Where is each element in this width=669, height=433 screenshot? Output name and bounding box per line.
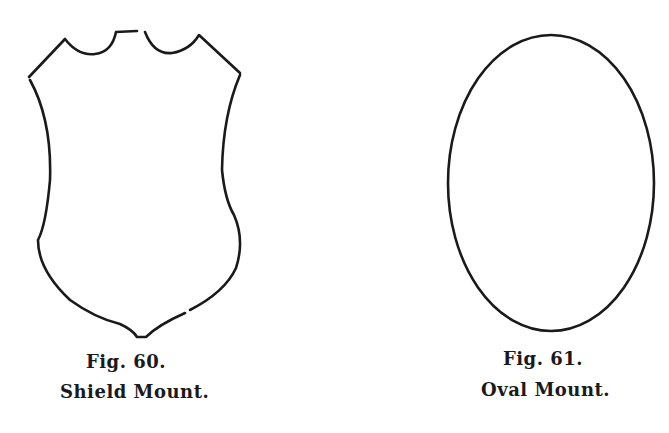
oval-mount-drawing <box>448 35 654 331</box>
figure-61-label: Fig. 61. <box>503 348 583 369</box>
figure-60-title: Shield Mount. <box>60 381 209 402</box>
figure-60-label: Fig. 60. <box>86 351 166 372</box>
shield-mount-drawing <box>29 31 240 337</box>
figure-61-title: Oval Mount. <box>481 379 610 400</box>
